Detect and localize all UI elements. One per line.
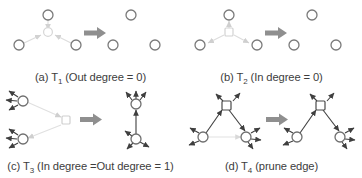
caption-suffix: (prune edge) [252, 160, 318, 172]
caption-suffix: (In degree =Out degree = 1) [34, 160, 174, 172]
panel-c-before-node-upper [6, 91, 28, 110]
panel-d-before-edges [206, 110, 245, 137]
node [335, 132, 345, 142]
panel-c-after-node-top [126, 91, 146, 109]
panel-b-after-nodes [289, 10, 341, 50]
panel-a-caption: (a) T1 (Out degree = 0) [0, 71, 181, 83]
node [252, 40, 262, 50]
panel-d-after-node-br [335, 128, 355, 149]
transition-arrow-c [80, 114, 102, 126]
node [289, 40, 299, 50]
panel-d-after-node-top [310, 93, 334, 110]
panel-d-after-edges [300, 110, 339, 133]
panel-d-before-node-top [216, 93, 240, 110]
panel-c-after-node-bottom [125, 131, 149, 149]
caption-prefix: (c) T [7, 160, 29, 172]
caption-suffix: (Out degree = 0) [62, 71, 146, 83]
node [43, 10, 53, 20]
node [71, 40, 81, 50]
transition-arrow-d [266, 114, 288, 126]
caption-index: 4 [248, 166, 252, 175]
panel-b-graphic [181, 0, 362, 62]
node [131, 99, 141, 109]
center-node [62, 116, 70, 124]
node [241, 132, 251, 142]
caption-index: 1 [58, 77, 62, 86]
panel-b: (b) T2 (In degree = 0) [181, 0, 362, 89]
node [108, 40, 118, 50]
node [14, 40, 24, 50]
node [18, 134, 28, 144]
transition-arrow-a [84, 27, 106, 39]
panel-c-graphic [0, 89, 181, 151]
node [195, 40, 205, 50]
panel-d-graphic [181, 89, 362, 151]
center-node [222, 101, 231, 110]
node [292, 132, 302, 142]
panel-a-after-nodes [108, 10, 160, 50]
center-node [225, 28, 233, 36]
transformation-rules-figure: (a) T1 (Out degree = 0) [0, 0, 362, 178]
node [126, 10, 136, 20]
panel-d-after-node-bl [283, 128, 302, 145]
panel-a: (a) T1 (Out degree = 0) [0, 0, 181, 89]
center-node [316, 101, 325, 110]
node [307, 10, 317, 20]
panel-d-caption: (d) T4 (prune edge) [181, 160, 362, 172]
panel-a-before-nodes [14, 10, 81, 50]
panel-b-before-nodes [195, 10, 262, 50]
panel-c: (c) T3 (In degree =Out degree = 1) [0, 89, 181, 178]
node [18, 96, 28, 106]
caption-suffix: (In degree = 0) [248, 71, 323, 83]
caption-prefix: (a) T [35, 71, 58, 83]
caption-prefix: (b) T [220, 71, 243, 83]
panel-b-caption: (b) T2 (In degree = 0) [181, 71, 362, 83]
transition-arrow-b [265, 27, 287, 39]
caption-index: 3 [30, 166, 34, 175]
panel-a-graphic [0, 0, 181, 62]
caption-prefix: (d) T [225, 160, 248, 172]
node [331, 40, 341, 50]
panel-d-before-node-bl [189, 128, 208, 145]
panel-c-caption: (c) T3 (In degree =Out degree = 1) [0, 160, 181, 172]
node [150, 40, 160, 50]
caption-index: 2 [243, 77, 247, 86]
panel-c-before-node-lower [6, 129, 28, 148]
node [198, 132, 208, 142]
node [131, 134, 141, 144]
panel-c-before-edges [27, 102, 61, 138]
center-node [44, 28, 53, 37]
panel-d: (d) T4 (prune edge) [181, 89, 362, 178]
node [224, 10, 234, 20]
panel-d-before-node-br [241, 128, 261, 149]
